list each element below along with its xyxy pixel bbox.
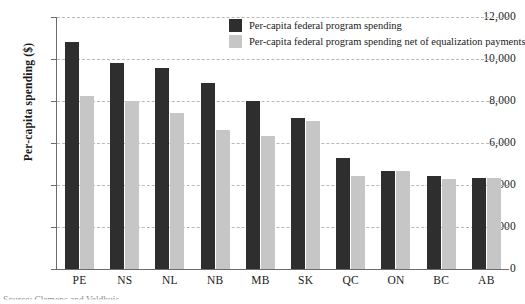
bar[interactable] xyxy=(396,171,410,269)
plot-area xyxy=(57,17,509,269)
x-axis-tick-label: NB xyxy=(193,274,238,286)
bar-group xyxy=(328,17,373,269)
bar-group xyxy=(193,17,238,269)
bar[interactable] xyxy=(381,171,395,269)
bar[interactable] xyxy=(442,179,456,269)
bar-group xyxy=(102,17,147,269)
bar[interactable] xyxy=(216,130,230,269)
legend-swatch-icon xyxy=(229,19,242,32)
bar-group xyxy=(238,17,283,269)
legend-item-label: Per-capita federal program spending xyxy=(249,20,402,31)
x-axis-tick-label: BC xyxy=(419,274,464,286)
bar[interactable] xyxy=(472,178,486,269)
x-axis-tick-label: ON xyxy=(373,274,418,286)
bar-group xyxy=(419,17,464,269)
bar[interactable] xyxy=(351,176,365,269)
bar[interactable] xyxy=(201,83,215,269)
bar[interactable] xyxy=(336,158,350,269)
bar[interactable] xyxy=(110,63,124,269)
bar[interactable] xyxy=(306,121,320,269)
bar[interactable] xyxy=(155,68,169,269)
bar-group xyxy=(373,17,418,269)
x-axis-tick-label: PE xyxy=(57,274,102,286)
x-axis-line xyxy=(56,269,509,270)
bar[interactable] xyxy=(427,176,441,269)
bar[interactable] xyxy=(291,118,305,269)
source-note: Source: Clemens and Veldhuis xyxy=(3,295,119,304)
x-axis-tick-label: QC xyxy=(328,274,373,286)
legend-item[interactable]: Per-capita federal program spending net … xyxy=(229,34,525,48)
legend-item[interactable]: Per-capita federal program spending xyxy=(229,18,525,32)
bar[interactable] xyxy=(170,113,184,269)
y-axis-tick-mark xyxy=(51,269,57,270)
x-axis-tick-label: AB xyxy=(464,274,509,286)
legend: Per-capita federal program spending Per-… xyxy=(229,18,525,50)
bar[interactable] xyxy=(65,42,79,269)
bar[interactable] xyxy=(261,136,275,269)
legend-item-label: Per-capita federal program spending net … xyxy=(249,36,525,47)
bar[interactable] xyxy=(125,101,139,269)
legend-swatch-icon xyxy=(229,35,242,48)
x-axis-tick-label: SK xyxy=(283,274,328,286)
bar-group xyxy=(464,17,509,269)
bar-group xyxy=(147,17,192,269)
bar-group xyxy=(283,17,328,269)
bar[interactable] xyxy=(246,101,260,269)
bar-group xyxy=(57,17,102,269)
y-axis-title: Per-capita spending ($) xyxy=(22,32,34,172)
x-axis-tick-label: NL xyxy=(147,274,192,286)
x-axis-tick-label: NS xyxy=(102,274,147,286)
bar[interactable] xyxy=(80,96,94,269)
bar[interactable] xyxy=(487,178,501,269)
x-axis-tick-label: MB xyxy=(238,274,283,286)
